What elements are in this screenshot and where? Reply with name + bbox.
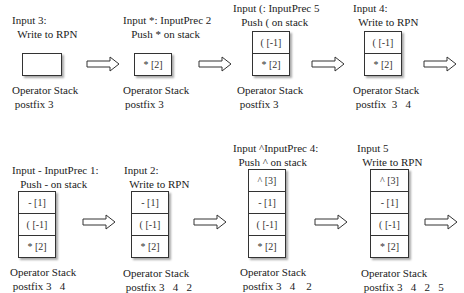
operator-stack: ( [-1] * [2] [252,31,290,76]
postfix-output: postfix 3 [237,98,279,111]
stack-cell: * [2] [249,236,285,258]
stack-cell: ( [-1] [249,214,285,236]
stack-cell: ^ [3] [249,170,285,192]
arrow-right-icon [424,214,458,230]
arrow-right-icon [86,56,120,72]
operator-stack [22,53,62,76]
step-2-input: Input *: InputPrec 2 [123,14,211,27]
stack-cell: * [2] [365,54,401,76]
step-8-input: Input 5 [357,142,388,155]
operator-stack: - [1] ( [-1] * [2] [131,191,169,258]
step-1-action: Write to RPN [12,28,77,41]
operator-stack: ^ [3] - [1] ( [-1] * [2] [248,169,286,258]
stack-caption: Operator Stack [237,84,303,97]
stack-cell: ( [-1] [253,32,289,54]
stack-caption: Operator Stack [361,267,427,280]
step-5-input: Input - InputPrec 1: [12,164,98,177]
postfix-output: postfix 3 [12,98,54,111]
operator-stack: ^ [3] - [1] ( [-1] * [2] [370,169,409,258]
stack-cell: - [1] [132,192,168,214]
step-4-action: Write to RPN [353,16,418,29]
stack-cell: * [2] [371,236,408,258]
step-4-input: Input 4: [353,2,388,15]
postfix-output: postfix 3 4 [353,98,411,111]
stack-caption: Operator Stack [10,266,76,279]
stack-cell: - [1] [249,192,285,214]
step-3-input: Input (: InputPrec 5 [233,2,319,15]
postfix-output: postfix 3 4 2 [123,281,192,293]
stack-cell: ( [-1] [19,214,55,236]
step-1-input: Input 3: [12,14,47,27]
stack-cell: ( [-1] [371,214,408,236]
stack-caption: Operator Stack [123,84,189,97]
stack-cell: * [2] [19,236,55,258]
stack-cell: ( [-1] [365,32,401,54]
operator-stack: ( [-1] * [2] [364,31,402,76]
step-7-action: Push ^ on stack [233,156,307,169]
arrow-right-icon [198,56,232,72]
postfix-output: postfix 3 4 2 [240,280,312,293]
step-8-action: Write to RPN [357,156,422,169]
step-6-action: Write to RPN [124,178,189,191]
stack-cell: * [2] [132,236,168,258]
postfix-output: postfix 3 4 [10,280,65,293]
stack-cell: - [1] [371,192,408,214]
stack-caption: Operator Stack [240,266,306,279]
arrow-right-icon [423,56,457,72]
step-5-action: Push - on stack [12,178,87,191]
stack-cell: ( [-1] [132,214,168,236]
postfix-output: postfix 3 4 2 5 [361,281,444,293]
step-7-input: Input ^InputPrec 4: [233,142,318,155]
operator-stack: - [1] ( [-1] * [2] [18,191,56,258]
step-3-action: Push ( on stack [233,16,308,29]
step-2-action: Push * on stack [123,28,200,41]
arrow-right-icon [311,56,345,72]
operator-stack: * [2] [134,53,172,76]
stack-caption: Operator Stack [353,84,419,97]
stack-cell: - [1] [19,192,55,214]
arrow-right-icon [82,214,116,230]
stack-cell: ^ [3] [371,170,408,192]
arrow-right-icon [193,214,227,230]
postfix-output: postfix 3 [125,98,164,111]
stack-caption: Operator Stack [123,267,189,280]
stack-cell: * [2] [135,54,171,76]
stack-cell: * [2] [253,54,289,76]
step-6-input: Input 2: [124,164,159,177]
stack-caption: Operator Stack [12,84,78,97]
arrow-right-icon [314,214,348,230]
